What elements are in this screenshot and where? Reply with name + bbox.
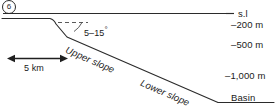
depth-label-1000m: –1,000 m	[225, 71, 265, 81]
depth-label-200m: –200 m	[231, 20, 263, 30]
slope-angle-value: 5–15	[84, 28, 104, 38]
scale-bar	[7, 55, 68, 62]
figure-panel: 6 s.l –200 m –500 m –1,000 m Basin 5–15°…	[0, 0, 277, 110]
seafloor-profile-line	[2, 19, 274, 103]
degree-symbol: °	[104, 25, 107, 34]
scale-bar-label: 5 km	[24, 64, 44, 73]
angle-arc	[74, 23, 82, 32]
slope-angle-label: 5–15°	[84, 26, 108, 38]
depth-label-500m: –500 m	[231, 40, 263, 50]
basin-label: Basin	[231, 93, 255, 103]
sea-level-label: s.l	[238, 9, 248, 19]
